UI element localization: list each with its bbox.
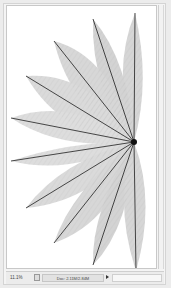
document-canvas[interactable] [6, 5, 157, 269]
leaf-fan-image [7, 6, 157, 269]
document-icon[interactable] [34, 274, 40, 281]
triangle-right-icon[interactable] [106, 275, 109, 279]
doc-size-info: Doc: 2.11M/2.84M [42, 274, 104, 282]
zoom-level-field[interactable]: 11.1% [10, 274, 30, 282]
horizontal-scrollbar[interactable] [112, 274, 162, 282]
vertical-scrollbar[interactable] [158, 5, 164, 269]
status-bar: 11.1% Doc: 2.11M/2.84M [6, 271, 164, 284]
